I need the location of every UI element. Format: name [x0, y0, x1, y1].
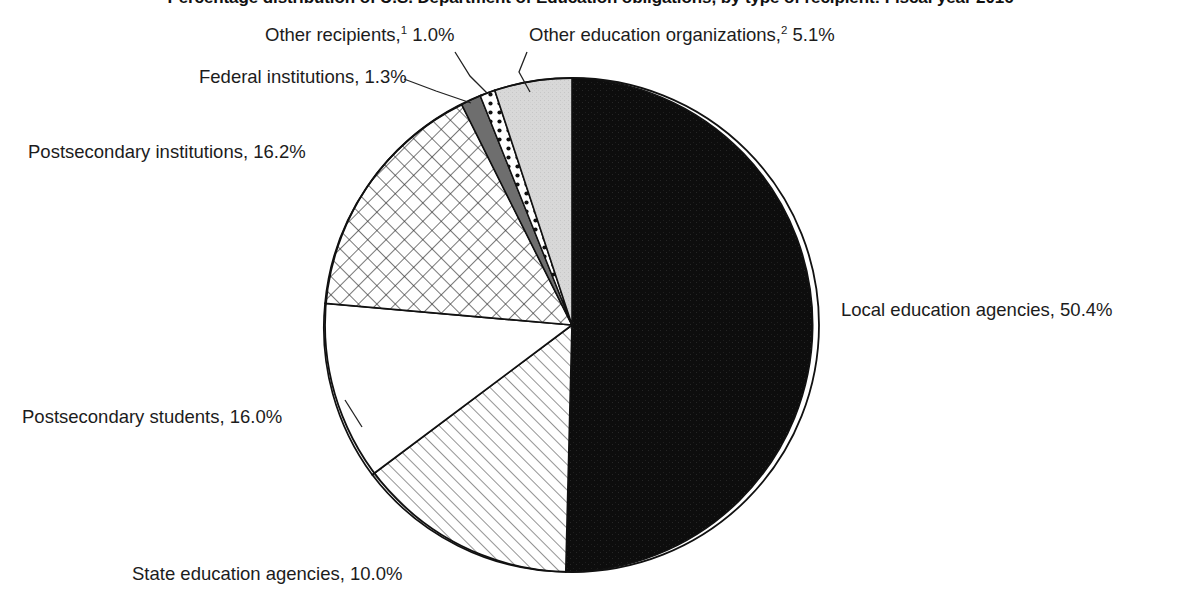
pie-label-other-recipients-value: 1.0% [412, 24, 454, 45]
pie-label-other-recipients-text: Other recipients, [265, 24, 401, 45]
pie-label-postsecondary-students: Postsecondary students, 16.0% [22, 406, 282, 428]
pie-label-other-education-organizations-footnote: 2 [781, 24, 787, 36]
pie-label-postsecondary-institutions: Postsecondary institutions, 16.2% [28, 141, 306, 163]
pie-label-federal-institutions: Federal institutions, 1.3% [199, 66, 407, 88]
leader-line-other-recipients [455, 52, 487, 93]
pie-label-other-education-organizations-value: 5.1% [793, 24, 835, 45]
pie-label-local-education-agencies: Local education agencies, 50.4% [841, 299, 1113, 321]
pie-slice-local-education-agencies[interactable] [566, 78, 813, 572]
pie-label-state-education-agencies: State education agencies, 10.0% [132, 563, 403, 585]
pie-label-other-education-organizations: Other education organizations,2 5.1% [529, 24, 835, 46]
chart-page: Percentage distribution of U.S. Departme… [0, 0, 1181, 613]
leader-line-federal-institutions [404, 79, 471, 103]
pie-label-other-education-organizations-text: Other education organizations, [529, 24, 781, 45]
pie-label-other-recipients-footnote: 1 [401, 24, 407, 36]
pie-label-other-recipients: Other recipients,1 1.0% [265, 24, 454, 46]
